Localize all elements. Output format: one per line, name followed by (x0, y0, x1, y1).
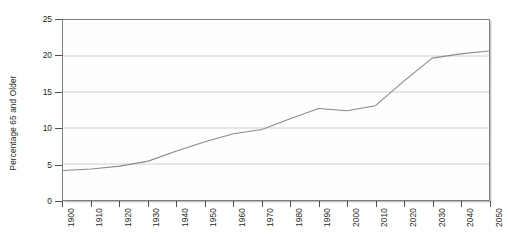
data-series-line (63, 20, 489, 200)
y-tick-label: 10 (43, 123, 52, 133)
x-tick-mark (347, 201, 348, 207)
x-tick-label: 1980 (294, 208, 304, 227)
x-tick-mark (433, 201, 434, 207)
y-tick-label: 0 (47, 196, 52, 206)
x-tick-mark (91, 201, 92, 207)
x-tick-label: 2010 (379, 208, 389, 227)
y-tick-label: 5 (47, 160, 52, 170)
y-tick-label: 20 (43, 50, 52, 60)
x-tick-mark (404, 201, 405, 207)
x-tick-mark (290, 201, 291, 207)
x-tick-mark (461, 201, 462, 207)
x-tick-label: 2050 (494, 208, 504, 227)
x-tick-label: 2000 (351, 208, 361, 227)
y-tick-mark (55, 55, 62, 56)
y-tick-label: 15 (43, 87, 52, 97)
x-tick-mark (376, 201, 377, 207)
x-tick-label: 1960 (237, 208, 247, 227)
x-tick-mark (148, 201, 149, 207)
y-axis-tick-marks (54, 19, 62, 201)
x-tick-label: 1900 (66, 208, 76, 227)
x-tick-label: 1920 (123, 208, 133, 227)
x-tick-mark (262, 201, 263, 207)
x-tick-label: 1990 (322, 208, 332, 227)
x-tick-mark (233, 201, 234, 207)
x-tick-label: 1930 (151, 208, 161, 227)
y-tick-mark (55, 92, 62, 93)
y-tick-mark (55, 165, 62, 166)
x-tick-label: 1950 (208, 208, 218, 227)
y-axis-title: Percentage 65 and Older (0, 0, 26, 246)
x-tick-label: 2030 (437, 208, 447, 227)
x-tick-mark (319, 201, 320, 207)
x-tick-mark (490, 201, 491, 207)
x-axis-tick-marks (62, 201, 490, 208)
x-tick-mark (119, 201, 120, 207)
plot-area (62, 19, 490, 201)
series-percentage-65-and-older (63, 51, 489, 171)
x-tick-label: 2020 (408, 208, 418, 227)
y-axis-tick-labels: 0510152025 (30, 19, 52, 201)
y-tick-mark (55, 19, 62, 20)
line-chart-figure: Percentage 65 and Older 0510152025 19001… (0, 0, 511, 246)
x-tick-label: 1970 (265, 208, 275, 227)
y-tick-label: 25 (43, 14, 52, 24)
y-tick-mark (55, 128, 62, 129)
x-tick-label: 1910 (94, 208, 104, 227)
x-tick-mark (176, 201, 177, 207)
x-axis-tick-labels: 1900191019201930194019501960197019801990… (62, 208, 490, 246)
x-tick-mark (62, 201, 63, 207)
x-tick-label: 2040 (465, 208, 475, 227)
y-tick-mark (55, 201, 62, 202)
x-tick-label: 1940 (180, 208, 190, 227)
x-tick-mark (205, 201, 206, 207)
